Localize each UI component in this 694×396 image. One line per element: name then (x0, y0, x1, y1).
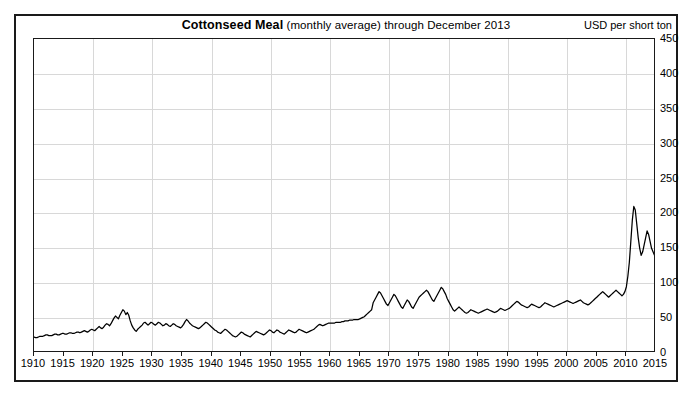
chart-title-sub: (monthly average) through December 2013 (287, 19, 511, 31)
y-axis-tick-label: 350 (660, 103, 688, 114)
units-label: USD per short ton (584, 19, 672, 31)
chart-container: Cottonseed Meal (monthly average) throug… (0, 0, 694, 396)
x-axis-tick-label: 1920 (77, 357, 107, 369)
x-axis-tick-label: 1990 (492, 357, 522, 369)
chart-header: Cottonseed Meal (monthly average) throug… (16, 16, 676, 36)
y-axis-tick-label: 100 (660, 277, 688, 288)
x-axis: 1910191519201925193019351940194519501955… (33, 357, 655, 373)
y-axis-tick-label: 400 (660, 68, 688, 79)
page-title: Cottonseed Meal (monthly average) throug… (16, 18, 676, 32)
x-axis-tick-label: 1940 (196, 357, 226, 369)
gridlines (34, 39, 655, 352)
y-axis: 050100150200250300350400450 (660, 38, 692, 352)
chart-plot-svg (34, 39, 655, 352)
y-axis-tick-label: 200 (660, 207, 688, 218)
x-axis-tick-label: 1955 (285, 357, 315, 369)
x-axis-tick-label: 2005 (581, 357, 611, 369)
x-axis-tick-label: 1995 (522, 357, 552, 369)
x-axis-tick-label: 1960 (314, 357, 344, 369)
price-series-line (34, 206, 655, 337)
x-axis-tick-label: 1935 (166, 357, 196, 369)
x-axis-tick-label: 2000 (551, 357, 581, 369)
x-axis-tick-label: 1950 (255, 357, 285, 369)
x-axis-tick-label: 1975 (403, 357, 433, 369)
x-axis-tick-label: 1930 (136, 357, 166, 369)
x-axis-tick-label: 2010 (610, 357, 640, 369)
x-axis-tick-label: 1970 (373, 357, 403, 369)
x-axis-tick-label: 1910 (18, 357, 48, 369)
x-axis-tick-label: 1915 (48, 357, 78, 369)
x-axis-tick-label: 2015 (640, 357, 670, 369)
y-axis-tick-label: 300 (660, 138, 688, 149)
x-axis-tick-label: 1980 (433, 357, 463, 369)
chart-title-main: Cottonseed Meal (182, 18, 284, 32)
x-axis-tick-label: 1985 (462, 357, 492, 369)
x-axis-tick-label: 1925 (107, 357, 137, 369)
x-axis-tick-label: 1965 (344, 357, 374, 369)
x-axis-tick-label: 1945 (225, 357, 255, 369)
y-axis-tick-label: 250 (660, 173, 688, 184)
y-axis-tick-label: 50 (660, 312, 688, 323)
plot-area (33, 38, 655, 352)
y-axis-tick-label: 450 (660, 33, 688, 44)
y-axis-tick-label: 150 (660, 242, 688, 253)
